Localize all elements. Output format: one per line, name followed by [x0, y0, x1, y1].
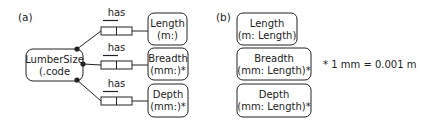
role-box-2: has: [101, 42, 132, 69]
svg-text:Length: Length: [250, 18, 285, 29]
orm-diagram: (a) LumberSize (.code has has has: [0, 0, 422, 125]
svg-text:(mm:)*: (mm:)*: [150, 65, 186, 76]
panel-b-label: (b): [216, 11, 231, 23]
predicate-label: has: [108, 7, 126, 18]
panel-a-label: (a): [18, 11, 33, 23]
svg-text:(mm:)*: (mm:)*: [150, 101, 186, 112]
svg-text:Depth: Depth: [259, 89, 289, 100]
predicate-label: has: [108, 42, 126, 53]
svg-text:(mm: Length)*: (mm: Length)*: [237, 101, 310, 112]
predicate-label: has: [108, 78, 126, 89]
value-type-length-b: Length (m: Length): [237, 13, 297, 45]
svg-text:Length: Length: [150, 18, 185, 29]
value-type-depth-b: Depth (mm: Length)*: [237, 84, 311, 117]
svg-text:(m:): (m:): [157, 30, 178, 41]
value-type-depth-a: Depth (mm:)*: [148, 84, 188, 117]
role-box-3: has: [101, 78, 132, 105]
unit-conversion-note: * 1 mm = 0.001 m: [323, 59, 417, 70]
svg-text:Breadth: Breadth: [148, 53, 188, 64]
svg-text:(m: Length): (m: Length): [238, 30, 297, 41]
entity-refmode: (.code: [39, 66, 70, 77]
value-type-breadth-a: Breadth (mm:)*: [148, 48, 188, 80]
value-type-breadth-b: Breadth (mm: Length)*: [237, 48, 311, 80]
entity-lumbersize: LumberSize (.code: [25, 49, 84, 81]
svg-text:(mm: Length)*: (mm: Length)*: [237, 65, 310, 76]
role-box-1: has: [101, 7, 132, 35]
value-type-length-a: Length (m:): [148, 13, 187, 45]
entity-name: LumberSize: [25, 54, 84, 65]
svg-text:Depth: Depth: [153, 89, 183, 100]
svg-text:Breadth: Breadth: [254, 53, 294, 64]
